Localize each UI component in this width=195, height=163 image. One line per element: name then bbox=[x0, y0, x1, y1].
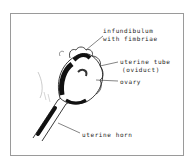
label-uterine-horn: uterine horn bbox=[82, 131, 133, 138]
ligament-line bbox=[38, 72, 42, 98]
label-with-fimbriae: with fimbriae bbox=[103, 35, 158, 42]
label-uterine-tube: uterine tube bbox=[120, 58, 171, 65]
leader-uterine-tube bbox=[100, 62, 118, 66]
ligament-line bbox=[44, 92, 50, 102]
leader-uterine-horn bbox=[58, 123, 80, 133]
label-infundibulum: infundibulum bbox=[103, 27, 154, 34]
leader-infundibulum bbox=[86, 36, 103, 50]
anatomy-drawing bbox=[0, 0, 195, 163]
ovary-shape bbox=[58, 53, 102, 104]
label-oviduct: (oviduct) bbox=[122, 66, 160, 73]
label-ovary: ovary bbox=[120, 78, 141, 85]
